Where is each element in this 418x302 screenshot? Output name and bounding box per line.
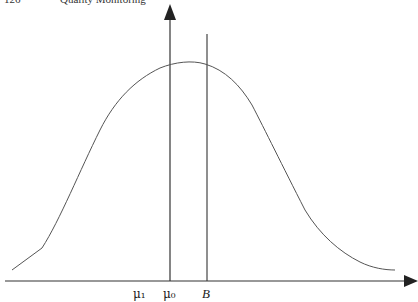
label-mu1: μ₁ bbox=[133, 287, 146, 301]
label-b: B bbox=[202, 286, 210, 302]
x-axis-arrow-icon bbox=[404, 275, 418, 287]
label-mu0: μ₀ bbox=[163, 287, 176, 301]
density-curve bbox=[12, 62, 395, 270]
y-axis-arrow-icon bbox=[164, 4, 176, 20]
